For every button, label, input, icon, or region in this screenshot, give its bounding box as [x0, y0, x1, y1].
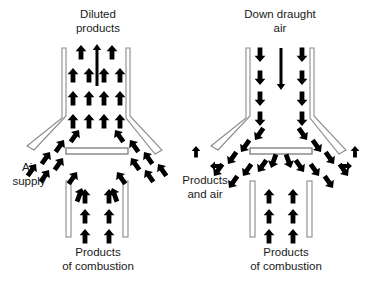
right-spill-left: [210, 125, 281, 191]
flue-diagram: [0, 0, 366, 284]
right-centre-down-arrow: [277, 48, 285, 90]
right-baffle-plate: [250, 148, 312, 154]
right-combustion-up-arrows: [264, 189, 299, 244]
left-combustion-up-arrows: [80, 189, 115, 244]
right-flue-walls: [211, 48, 346, 154]
right-spill-right: [281, 125, 352, 191]
left-baffle-plate: [66, 148, 128, 154]
right-chamber-walls: [250, 181, 312, 237]
figure-canvas: Diluted products Air supply Products of …: [0, 0, 366, 284]
left-air-entrainment-right: [107, 127, 171, 204]
left-flue-up-arrows: [68, 44, 126, 129]
left-flue-walls: [27, 48, 162, 154]
left-air-entrainment-left: [23, 127, 87, 204]
left-chamber-walls: [66, 181, 128, 237]
